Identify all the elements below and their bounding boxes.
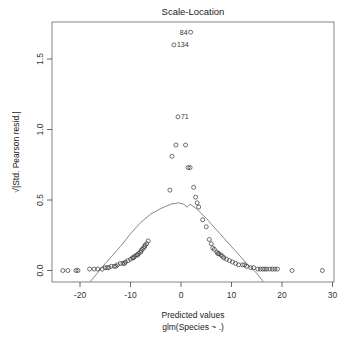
data-point [88, 267, 92, 271]
chart-title: Scale-Location [162, 6, 225, 17]
data-points [61, 143, 325, 272]
data-point [275, 267, 279, 271]
data-point [207, 237, 211, 241]
data-point [252, 266, 256, 270]
x-tick-label: 20 [277, 290, 287, 300]
labeled-data-point [176, 115, 180, 119]
y-tick-label: 0.5 [35, 194, 45, 206]
x-axis-label: Predicted values [162, 310, 225, 320]
data-point [174, 143, 178, 147]
data-point [170, 154, 174, 158]
x-tick-label: -20 [74, 290, 87, 300]
data-point [61, 269, 65, 273]
data-point [290, 269, 294, 273]
smoother-line [90, 203, 263, 282]
labeled-data-point [189, 30, 193, 34]
x-axis-sublabel: glm(Species ~ .) [162, 322, 224, 332]
data-point [320, 269, 324, 273]
plot-area [52, 22, 334, 282]
data-point [209, 242, 213, 246]
data-point [66, 269, 70, 273]
data-point [197, 205, 201, 209]
y-tick-label: 1.5 [35, 53, 45, 65]
y-axis: 0.00.51.01.5 [35, 53, 52, 277]
data-point [168, 188, 172, 192]
scale-location-chart: Scale-Location 0.00.51.01.5 -20-10010203… [0, 0, 346, 347]
x-tick-label: 30 [328, 290, 338, 300]
y-tick-label: 0.0 [35, 264, 45, 276]
x-tick-label: 0 [179, 290, 184, 300]
x-tick-label: 10 [227, 290, 237, 300]
point-id-label: 84 [180, 29, 188, 36]
data-point [204, 225, 208, 229]
x-tick-label: -10 [124, 290, 137, 300]
point-labels: 8413471 [172, 29, 193, 121]
data-point [184, 143, 188, 147]
labeled-data-point [172, 43, 176, 47]
data-point [195, 201, 199, 205]
point-id-label: 134 [177, 41, 189, 48]
y-axis-label: √|Std. Pearson resid.| [11, 111, 21, 192]
y-tick-label: 1.0 [35, 123, 45, 135]
data-point [194, 195, 198, 199]
point-id-label: 71 [181, 113, 189, 120]
data-point [192, 185, 196, 189]
x-axis: -20-100102030 [74, 282, 338, 300]
data-point [201, 218, 205, 222]
